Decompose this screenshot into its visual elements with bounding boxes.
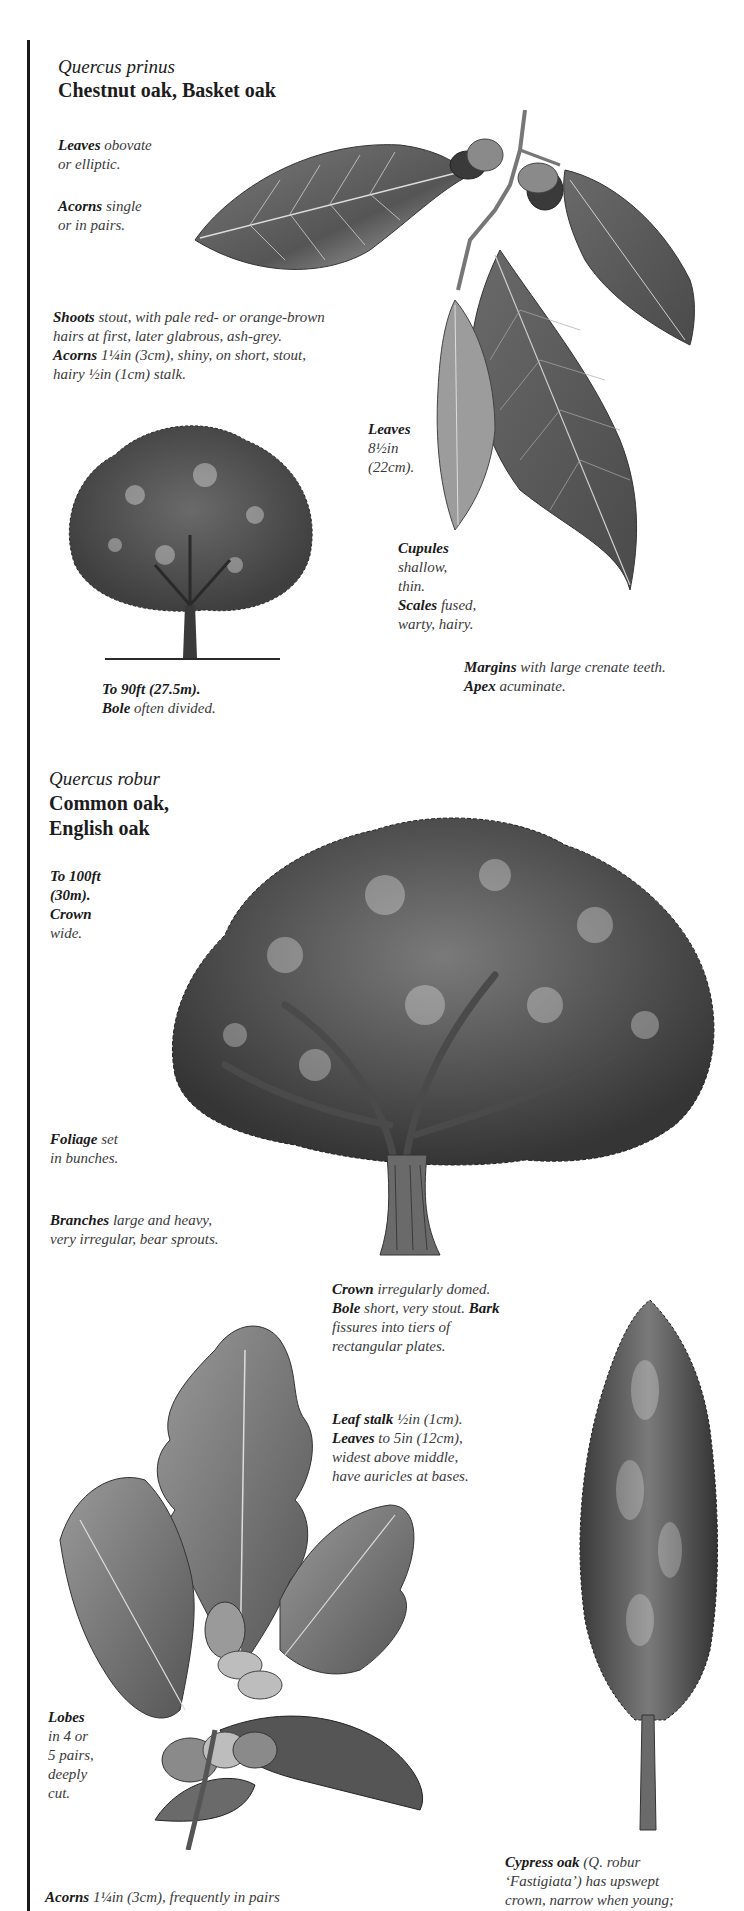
note-leaves-shape: Leaves obovate or elliptic. [58, 136, 152, 174]
common-oak-tree-illustration [165, 805, 725, 1265]
species-2-common-name-line-1: Common oak, [49, 791, 169, 815]
note-acorns-arrangement: Acorns single or in pairs. [58, 197, 142, 235]
species-1-scientific-name: Quercus prinus [58, 56, 175, 78]
note-acorns-robur: Acorns 1¼in (3cm), frequently in pairs [45, 1888, 280, 1907]
chestnut-oak-tree-illustration [55, 415, 330, 670]
species-2-common-name-line-2: English oak [49, 816, 150, 840]
note-height-crown: To 100ft (30m). Crown wide. [50, 867, 101, 943]
common-oak-leaf-sprig-illustration [40, 1310, 480, 1850]
species-1-common-name: Chestnut oak, Basket oak [58, 78, 276, 102]
note-height-bole: To 90ft (27.5m). Bole often divided. [102, 680, 216, 718]
note-cypress-oak: Cypress oak (Q. robur ‘Fastigiata’) has … [505, 1853, 674, 1910]
note-margins-apex: Margins with large crenate teeth. Apex a… [464, 658, 666, 696]
species-2-scientific-name: Quercus robur [49, 768, 160, 790]
note-foliage: Foliage set in bunches. [50, 1130, 118, 1168]
cypress-oak-tree-illustration [560, 1290, 730, 1840]
margin-rule [27, 40, 30, 1911]
